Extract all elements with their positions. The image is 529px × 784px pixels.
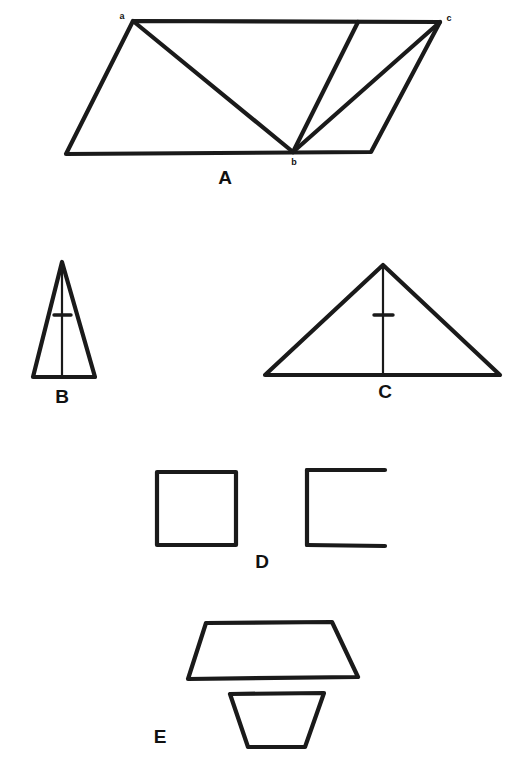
figure-canvas: a c b A B C D: [0, 0, 529, 784]
panel-c-group: C: [265, 265, 500, 402]
panel-label-d: D: [255, 551, 269, 572]
triangle-b-outline: [33, 262, 95, 377]
parallelogram-outline: [66, 21, 440, 154]
vertex-label-c: c: [446, 13, 451, 23]
figure-sheet: a c b A B C D: [0, 0, 529, 784]
vertex-label-b: b: [291, 157, 297, 167]
panel-label-e: E: [154, 726, 167, 747]
small-inverted-trapezoid: [230, 693, 324, 747]
panel-d-group: D: [157, 470, 385, 572]
cevian-a-to-b: [133, 21, 293, 152]
panel-b-group: B: [33, 262, 95, 407]
cevian-b-to-c: [293, 22, 440, 152]
panel-label-c: C: [378, 381, 392, 402]
open-square-bottom-edge: [307, 545, 385, 546]
panel-e-group: E: [154, 622, 358, 747]
panel-a-group: a c b A: [66, 11, 452, 188]
vertex-label-a: a: [119, 11, 125, 21]
panel-label-a: A: [218, 167, 232, 188]
cevian-b-to-top-edge: [293, 22, 358, 152]
large-trapezoid: [188, 622, 358, 679]
panel-label-b: B: [55, 386, 69, 407]
closed-square: [157, 472, 236, 545]
